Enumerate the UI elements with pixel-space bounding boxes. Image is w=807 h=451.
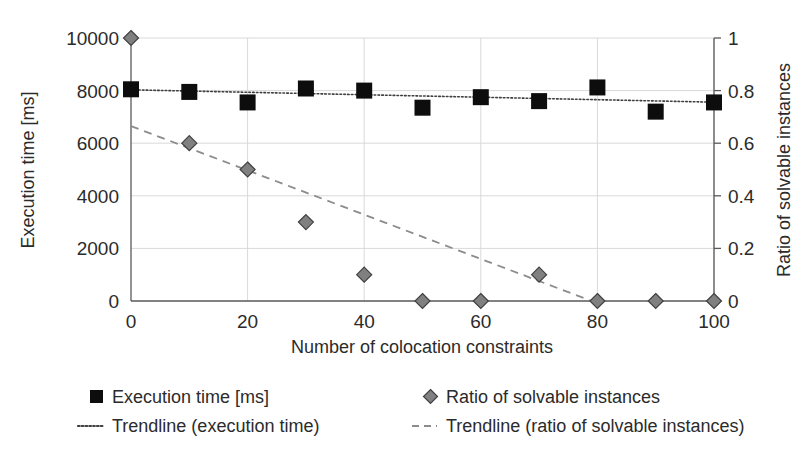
y2-tick-label: 0.2 (728, 238, 754, 259)
data-point-ratio-solvable (182, 136, 197, 151)
data-point-ratio-solvable (357, 267, 372, 282)
data-point-ratio-solvable (707, 294, 722, 309)
data-point-execution-time (123, 81, 139, 97)
legend-label: Ratio of solvable instances (446, 387, 660, 407)
y2-axis-title: Ratio of solvable instances (774, 63, 794, 277)
data-point-ratio-solvable (415, 294, 430, 309)
legend-label: Execution time [ms] (112, 387, 269, 407)
y-tick-label: 0 (108, 291, 119, 312)
scatter-chart: 0200040006000800010000 00.20.40.60.81 02… (0, 0, 807, 451)
y-tick-label: 6000 (77, 133, 119, 154)
data-point-execution-time (181, 84, 197, 100)
data-point-ratio-solvable (473, 294, 488, 309)
x-tick-label: 40 (354, 311, 375, 332)
y-axis-tick-labels: 0200040006000800010000 (66, 28, 119, 312)
legend-label: Trendline (execution time) (112, 416, 319, 436)
legend-item-ratio-solvable: Ratio of solvable instances (424, 387, 661, 407)
legend-item-trendline-execution-time: Trendline (execution time) (78, 416, 319, 436)
data-point-ratio-solvable (590, 294, 605, 309)
x-axis-title: Number of colocation constraints (291, 337, 553, 357)
y-tick-label: 10000 (66, 28, 119, 49)
x-tick-label: 80 (587, 311, 608, 332)
x-tick-label: 60 (470, 311, 491, 332)
data-point-execution-time (415, 100, 431, 116)
legend-item-trendline-ratio: Trendline (ratio of solvable instances) (412, 416, 744, 436)
y2-tick-label: 0.6 (728, 133, 754, 154)
series-execution-time (123, 79, 722, 119)
x-tick-label: 20 (237, 311, 258, 332)
y-tick-label: 8000 (77, 81, 119, 102)
legend-label: Trendline (ratio of solvable instances) (446, 416, 744, 436)
data-point-ratio-solvable (648, 294, 663, 309)
y-tick-label: 2000 (77, 238, 119, 259)
legend-marker-diamond (424, 390, 438, 404)
y-axis-title: Execution time [ms] (18, 91, 38, 248)
y2-axis-tick-labels: 00.20.40.60.81 (728, 28, 755, 312)
data-point-execution-time (531, 93, 547, 109)
data-point-ratio-solvable (532, 267, 547, 282)
data-point-execution-time (356, 83, 372, 99)
x-axis-tick-labels: 020406080100 (126, 311, 730, 332)
data-point-execution-time (589, 79, 605, 95)
x-tick-label: 100 (698, 311, 730, 332)
x-tick-label: 0 (126, 311, 137, 332)
y2-tick-label: 0.4 (728, 186, 755, 207)
data-point-execution-time (706, 94, 722, 110)
data-point-execution-time (648, 104, 664, 120)
chart-container: 0200040006000800010000 00.20.40.60.81 02… (0, 0, 807, 451)
y-tick-label: 4000 (77, 186, 119, 207)
y2-tick-label: 1 (728, 28, 739, 49)
tick-marks (714, 38, 721, 301)
data-point-ratio-solvable (298, 215, 313, 230)
data-point-execution-time (473, 89, 489, 105)
y2-tick-label: 0 (728, 291, 739, 312)
legend-marker-square (90, 390, 103, 403)
data-point-ratio-solvable (240, 162, 255, 177)
axes (131, 38, 714, 301)
data-point-ratio-solvable (124, 31, 139, 46)
gridlines (131, 38, 714, 301)
data-point-execution-time (240, 94, 256, 110)
y2-tick-label: 0.8 (728, 81, 754, 102)
data-point-execution-time (298, 80, 314, 96)
legend-item-execution-time: Execution time [ms] (90, 387, 269, 407)
chart-legend: Execution time [ms]Ratio of solvable ins… (78, 387, 744, 436)
series-ratio-solvable (124, 31, 722, 309)
